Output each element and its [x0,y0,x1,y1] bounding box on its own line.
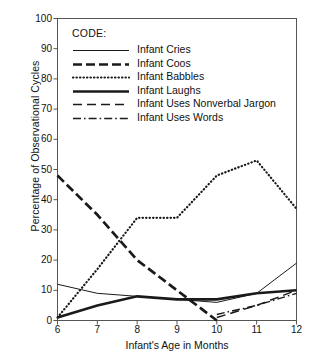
legend-item-label: Infant Cries [137,43,191,56]
legend-item-label: Infant Laughs [137,84,201,97]
legend-line-swatch [72,84,130,97]
legend-item-label: Infant Uses Nonverbal Jargon [137,97,276,110]
series-line [58,263,297,302]
legend-item[interactable]: Infant Uses Words [72,111,287,125]
legend-item-label: Infant Coos [137,57,191,70]
data-series-group [58,160,297,320]
legend-item-label: Infant Babbles [137,70,204,83]
legend-rows: Infant CriesInfant CoosInfant BabblesInf… [72,43,287,124]
chart-figure: Percentage of Observational Cycles 10090… [0,0,317,362]
legend-line-swatch [72,70,130,83]
legend-item-label: Infant Uses Words [137,111,223,124]
legend-item[interactable]: Infant Babbles [72,70,287,84]
legend-line-swatch [72,43,130,56]
legend-item[interactable]: Infant Laughs [72,84,287,98]
legend-line-swatch [72,57,130,70]
legend-title: CODE: [72,27,287,39]
legend-line-swatch [72,97,130,110]
legend-item[interactable]: Infant Cries [72,43,287,57]
legend-line-swatch [72,111,130,124]
chart-legend: CODE: Infant CriesInfant CoosInfant Babb… [72,27,287,124]
legend-item[interactable]: Infant Coos [72,57,287,71]
legend-item[interactable]: Infant Uses Nonverbal Jargon [72,97,287,111]
